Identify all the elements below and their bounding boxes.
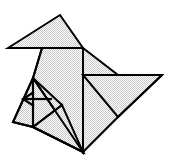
origami-figure-canvas [0, 0, 171, 162]
origami-diagram: Origami bird fold diagram arrow pointing… [0, 0, 171, 162]
head-beak-panel [8, 15, 83, 48]
